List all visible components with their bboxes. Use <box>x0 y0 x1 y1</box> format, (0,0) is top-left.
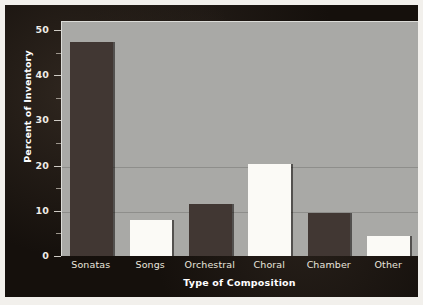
x-axis-label-chamber: Chamber <box>299 259 359 270</box>
bar-songs <box>130 220 173 256</box>
y-axis-tick <box>54 75 61 76</box>
bar-slot <box>240 22 299 256</box>
y-axis-tick-label: 10 <box>23 206 49 216</box>
x-axis-label-other: Other <box>359 259 419 270</box>
y-axis-title: Percent of Inventory <box>22 37 33 177</box>
y-axis-tick <box>54 120 61 121</box>
y-axis-tick <box>54 30 61 31</box>
y-axis-tick <box>54 256 61 257</box>
bar-slot <box>121 22 180 256</box>
x-axis-label-songs: Songs <box>121 259 181 270</box>
bar-chamber <box>308 213 351 256</box>
bar-series <box>62 22 418 256</box>
y-axis-tick-label: 40 <box>23 70 49 80</box>
bar-slot <box>181 22 240 256</box>
bar-slot <box>299 22 358 256</box>
x-axis-title: Type of Composition <box>61 277 418 288</box>
x-axis-label-orchestral: Orchestral <box>180 259 240 270</box>
y-axis-tick-label: 50 <box>23 25 49 35</box>
chart-panel: Percent of Inventory 01020304050 Sonatas… <box>5 5 418 297</box>
y-axis-tick-label: 0 <box>23 251 49 261</box>
y-axis-tick-label: 20 <box>23 161 49 171</box>
bar-other <box>367 236 410 256</box>
chart-figure: Percent of Inventory 01020304050 Sonatas… <box>0 0 423 305</box>
y-axis-tick <box>54 166 61 167</box>
y-axis-tick <box>54 211 61 212</box>
x-axis-label-choral: Choral <box>240 259 300 270</box>
bar-choral <box>248 164 291 256</box>
bar-slot <box>62 22 121 256</box>
plot-area <box>61 21 418 256</box>
y-axis-tick-label: 30 <box>23 115 49 125</box>
x-axis-labels: SonatasSongsOrchestralChoralChamberOther <box>61 259 418 270</box>
bar-orchestral <box>189 204 232 256</box>
bar-sonatas <box>70 42 113 256</box>
bar-slot <box>359 22 418 256</box>
x-axis-label-sonatas: Sonatas <box>61 259 121 270</box>
